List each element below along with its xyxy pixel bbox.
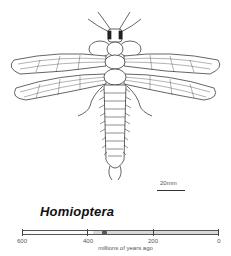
timeline-axis-label: millions of years ago [0, 245, 231, 251]
timeline-tick [87, 229, 88, 236]
timeline-tick [22, 229, 23, 236]
geologic-timeline [22, 230, 219, 236]
timeline-range-shade [93, 231, 218, 234]
timeline-tick-label: 0 [217, 238, 220, 244]
timeline-marker [102, 230, 107, 235]
timeline-tick-label: 200 [148, 238, 158, 244]
timeline-tick [153, 229, 154, 236]
taxon-title: Homioptera [40, 204, 114, 219]
timeline-tick-label: 600 [17, 238, 27, 244]
scale-bar-label: 20mm [160, 180, 177, 186]
timeline-tick-label: 400 [83, 238, 93, 244]
scale-bar [157, 190, 185, 191]
insect-illustration [0, 0, 231, 180]
timeline-tick [218, 229, 219, 236]
